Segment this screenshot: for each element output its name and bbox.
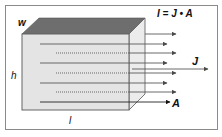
block-top-face bbox=[22, 18, 145, 34]
width-label: w bbox=[18, 18, 26, 28]
conductor-diagram bbox=[0, 0, 222, 137]
height-label: h bbox=[11, 71, 17, 81]
formula-text: I = J • A bbox=[157, 8, 193, 19]
length-label: l bbox=[69, 116, 71, 126]
area-label: A bbox=[172, 98, 180, 109]
formula-label: I = J • A bbox=[157, 9, 193, 19]
block-side-face bbox=[129, 18, 145, 110]
current-density-label: J bbox=[192, 56, 198, 67]
block-front-face bbox=[22, 34, 129, 110]
